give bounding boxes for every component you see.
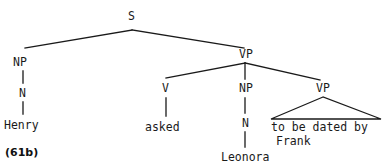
node-label-vp-matrix: VP (239, 48, 253, 60)
leaf-label-leonora: Leonora (221, 151, 269, 163)
node-label-vp-embedded: VP (316, 82, 330, 94)
vp2-triangle (271, 97, 381, 119)
branch-s-to-vp (132, 30, 244, 48)
leaf-label-to-be-dated-by: to be dated by (271, 121, 368, 133)
branch-vp-to-vp2 (245, 63, 320, 80)
node-label-np-object: NP (239, 82, 253, 94)
node-label-s: S (128, 10, 135, 22)
leaf-label-henry: Henry (4, 119, 39, 131)
leaf-label-asked: asked (145, 121, 180, 133)
branch-s-to-np (25, 30, 132, 48)
node-label-np-subject: NP (13, 56, 27, 68)
example-number-label: (61b) (5, 146, 38, 159)
syntax-tree-figure: S NP N VP V NP N VP Henry asked Leonora … (0, 0, 384, 166)
leaf-label-frank: Frank (276, 135, 311, 147)
node-label-n-subject: N (19, 87, 26, 99)
branch-vp-to-v (166, 63, 245, 78)
node-label-n-object: N (242, 117, 249, 129)
node-label-v: V (162, 82, 169, 94)
